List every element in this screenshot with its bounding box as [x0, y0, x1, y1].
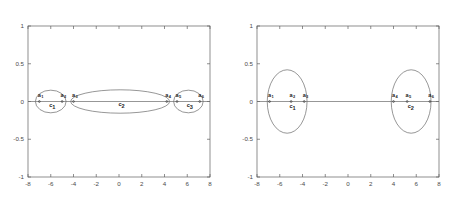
- cluster-label: c1: [290, 103, 296, 111]
- x-tick-label: -4: [71, 180, 77, 187]
- data-point-label-subscript: 1: [41, 94, 44, 99]
- data-point-label: a2: [290, 92, 296, 100]
- y-tick-label: -1: [247, 173, 253, 180]
- data-point-label: a4: [392, 92, 398, 100]
- x-tick-label: 6: [415, 180, 419, 187]
- data-point-label: a6: [198, 92, 204, 100]
- x-tick-label: 0: [346, 180, 350, 187]
- data-point-label: a5: [406, 92, 412, 100]
- data-point-label-subscript: 5: [409, 94, 412, 99]
- x-tick-label: 4: [163, 180, 167, 187]
- data-point-label-subscript: 2: [293, 94, 296, 99]
- data-point-label-subscript: 4: [169, 94, 172, 99]
- y-tick-label: 0.5: [15, 60, 24, 67]
- figure-canvas: -8-6-4-20246810.50-0.5-1c1c2c3a1a2a3a4a5…: [0, 0, 459, 202]
- x-tick-label: -6: [48, 180, 54, 187]
- cluster-label: c3: [187, 102, 193, 110]
- data-point-label-subscript: 6: [202, 94, 205, 99]
- data-point-label-subscript: 6: [432, 94, 435, 99]
- x-tick-label: -6: [277, 180, 283, 187]
- cluster-label-subscript: 1: [52, 104, 55, 110]
- plot-right-content: -8-6-4-20246810.50-0.5-1c1c2a1a2a3a4a5a6: [242, 22, 441, 187]
- plot-panel-left: -8-6-4-20246810.50-0.5-1c1c2c3a1a2a3a4a5…: [0, 0, 230, 202]
- x-tick-label: 8: [437, 180, 441, 187]
- data-point-label-subscript: 2: [64, 94, 67, 99]
- cluster-label-subscript: 1: [293, 105, 296, 111]
- y-tick-label: -1: [18, 173, 24, 180]
- data-point-label: a6: [428, 92, 434, 100]
- x-tick-label: 2: [369, 180, 373, 187]
- data-point-label-subscript: 1: [271, 94, 274, 99]
- y-tick-label: 1: [21, 22, 25, 29]
- x-tick-label: -2: [93, 180, 99, 187]
- data-point-label-subscript: 3: [306, 94, 309, 99]
- cluster-label: c2: [119, 101, 125, 109]
- cluster-label: c1: [49, 102, 55, 110]
- x-tick-label: 0: [117, 180, 121, 187]
- x-tick-label: 6: [186, 180, 190, 187]
- cluster-label-subscript: 2: [122, 103, 125, 109]
- plot-left-content: -8-6-4-20246810.50-0.5-1c1c2c3a1a2a3a4a5…: [13, 22, 212, 187]
- x-tick-label: -2: [322, 180, 328, 187]
- x-tick-label: 2: [140, 180, 144, 187]
- y-tick-label: 0: [21, 98, 25, 105]
- data-point-label-subscript: 5: [179, 94, 182, 99]
- x-tick-label: -8: [254, 180, 260, 187]
- data-point-label: a2: [61, 92, 67, 100]
- y-tick-label: 0: [250, 98, 254, 105]
- y-tick-label: 1: [250, 22, 254, 29]
- cluster-label: c2: [408, 103, 414, 111]
- data-point-label: a4: [165, 92, 171, 100]
- data-point-label: a3: [303, 92, 309, 100]
- x-tick-label: 8: [208, 180, 212, 187]
- y-tick-label: -0.5: [13, 135, 24, 142]
- cluster-label-subscript: 3: [190, 104, 193, 110]
- x-tick-label: -8: [25, 180, 31, 187]
- data-point-label-subscript: 4: [395, 94, 398, 99]
- x-tick-label: -4: [300, 180, 306, 187]
- data-point-label: a1: [268, 92, 274, 100]
- y-tick-label: -0.5: [242, 135, 253, 142]
- cluster-label-subscript: 2: [411, 105, 414, 111]
- y-tick-label: 0.5: [244, 60, 253, 67]
- plot-panel-right: -8-6-4-20246810.50-0.5-1c1c2a1a2a3a4a5a6: [229, 0, 459, 202]
- x-tick-label: 4: [392, 180, 396, 187]
